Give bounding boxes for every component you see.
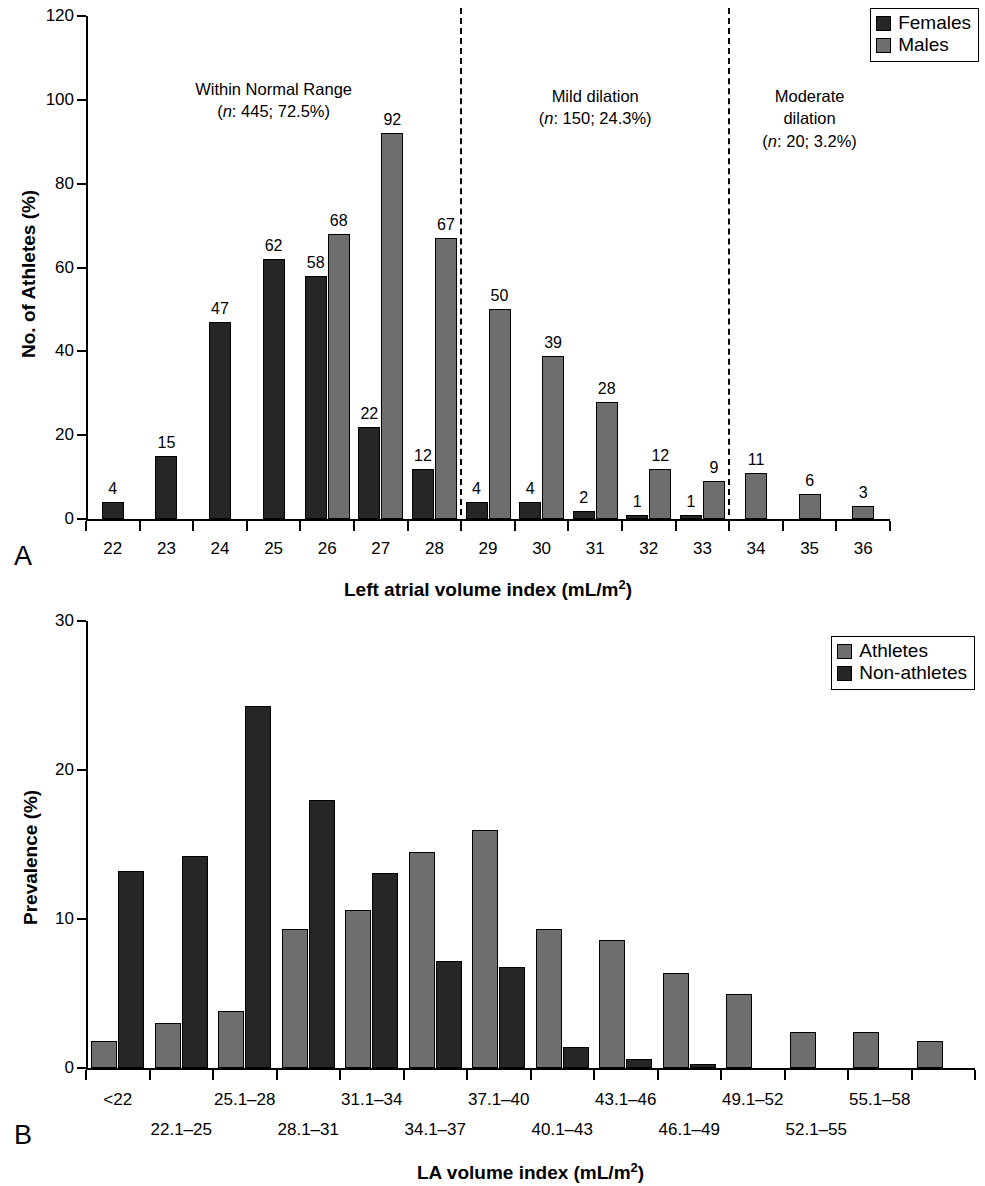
- x-axis-tick: [530, 1070, 532, 1080]
- bar-females: [519, 502, 541, 519]
- y-axis-title: Prevalence (%): [20, 789, 42, 924]
- bar-athletes: [218, 1011, 244, 1068]
- x-axis-tick-label: 43.1–46: [578, 1090, 674, 1110]
- x-axis-tick: [407, 521, 409, 531]
- y-axis-tick-label: 120: [28, 6, 74, 26]
- y-axis-line: [86, 621, 88, 1068]
- bar-value-label: 92: [383, 111, 401, 129]
- bar-males: [852, 506, 874, 519]
- region-note-n: (n: 445; 72.5%): [195, 100, 352, 122]
- x-axis-tick: [246, 521, 248, 531]
- bar-value-label: 1: [633, 493, 642, 511]
- x-axis-title-exponent: 2: [618, 577, 625, 592]
- bar-non-athletes: [118, 871, 144, 1068]
- legend-swatch-non-athletes: [837, 666, 852, 681]
- bar-non-athletes: [626, 1059, 652, 1068]
- region-note-normal: Within Normal Range(n: 445; 72.5%): [195, 78, 352, 123]
- x-axis-line: [86, 519, 890, 521]
- legend-item-females[interactable]: Females: [876, 12, 971, 34]
- legend-item-athletes[interactable]: Athletes: [837, 640, 967, 662]
- x-axis-title-tail: ): [638, 1162, 644, 1183]
- legend-label-athletes: Athletes: [859, 640, 928, 662]
- x-axis-tick: [593, 1070, 595, 1080]
- legend-panel-b: AthletesNon-athletes: [831, 636, 975, 690]
- bar-value-label: 2: [579, 489, 588, 507]
- x-axis-tick-label: 22: [83, 539, 143, 559]
- bar-athletes: [472, 830, 498, 1068]
- bar-value-label: 67: [437, 216, 455, 234]
- bar-athletes: [663, 973, 689, 1068]
- bar-value-label: 68: [330, 212, 348, 230]
- legend-swatch-females: [876, 16, 891, 31]
- y-axis-line: [86, 16, 88, 519]
- x-axis-tick-label: <22: [70, 1090, 166, 1110]
- x-axis-tick: [85, 521, 87, 531]
- y-axis-tick-label: 30: [30, 611, 74, 631]
- bar-males: [596, 402, 618, 519]
- x-axis-tick-label: 55.1–58: [832, 1090, 928, 1110]
- bar-athletes: [409, 852, 435, 1068]
- panel-letter-a: A: [14, 541, 32, 572]
- y-axis-tick: [77, 769, 86, 771]
- bar-non-athletes: [499, 967, 525, 1068]
- bar-value-label: 58: [307, 254, 325, 272]
- bar-value-label: 22: [360, 405, 378, 423]
- panel-letter-b: B: [14, 1120, 32, 1151]
- bar-males: [649, 469, 671, 519]
- x-axis-tick-label: 36: [833, 539, 893, 559]
- x-axis-tick-label: 27: [351, 539, 411, 559]
- bar-athletes: [536, 929, 562, 1068]
- region-note-n: (n: 150; 24.3%): [539, 107, 652, 129]
- y-axis-tick-label: 20: [28, 425, 74, 445]
- region-note-title: Within Normal Range: [195, 78, 352, 100]
- x-axis-tick: [567, 521, 569, 531]
- x-axis-tick: [847, 1070, 849, 1080]
- region-note-title: Mild dilation: [539, 85, 652, 107]
- x-axis-tick-label: 46.1–49: [641, 1120, 737, 1140]
- x-axis-tick-label: 30: [512, 539, 572, 559]
- x-axis-title-text: LA volume index (mL/m: [417, 1162, 631, 1183]
- x-axis-tick: [720, 1070, 722, 1080]
- bar-value-label: 9: [709, 459, 718, 477]
- x-axis-tick-label: 40.1–43: [514, 1120, 610, 1140]
- x-axis-title-tail: ): [626, 579, 632, 600]
- x-axis-tick-label: 26: [297, 539, 357, 559]
- x-axis-tick: [782, 521, 784, 531]
- bar-value-label: 4: [526, 480, 535, 498]
- bar-value-label: 4: [472, 480, 481, 498]
- bar-females: [102, 502, 124, 519]
- bar-athletes: [599, 940, 625, 1068]
- y-axis-tick: [77, 15, 86, 17]
- legend-item-males[interactable]: Males: [876, 34, 971, 56]
- x-axis-tick-label: 22.1–25: [133, 1120, 229, 1140]
- panel-b-chart: 0102030<2222.1–2525.1–2828.1–3131.1–3434…: [0, 600, 985, 1186]
- bar-athletes: [790, 1032, 816, 1068]
- legend-item-non-athletes[interactable]: Non-athletes: [837, 662, 967, 684]
- y-axis-tick-label: 0: [30, 1058, 74, 1078]
- bar-non-athletes: [372, 873, 398, 1068]
- bar-value-label: 6: [805, 472, 814, 490]
- x-axis-title-text: Left atrial volume index (mL/m: [344, 579, 619, 600]
- bar-athletes: [726, 994, 752, 1069]
- region-note-n: (n: 20; 3.2%): [762, 130, 857, 152]
- bar-males: [745, 473, 767, 519]
- x-axis-tick: [835, 521, 837, 531]
- bar-value-label: 28: [598, 380, 616, 398]
- bar-non-athletes: [309, 800, 335, 1068]
- x-axis-tick: [276, 1070, 278, 1080]
- legend-swatch-males: [876, 38, 891, 53]
- legend-label-non-athletes: Non-athletes: [859, 662, 967, 684]
- legend-swatch-athletes: [837, 644, 852, 659]
- region-note-mild: Mild dilation(n: 150; 24.3%): [539, 85, 652, 130]
- x-axis-tick-label: 31: [565, 539, 625, 559]
- x-axis-tick-label: 31.1–34: [324, 1090, 420, 1110]
- bar-value-label: 12: [651, 447, 669, 465]
- bar-value-label: 11: [748, 451, 765, 469]
- x-axis-tick-label: 25.1–28: [197, 1090, 293, 1110]
- x-axis-tick-label: 25: [244, 539, 304, 559]
- bar-females: [209, 322, 231, 519]
- bar-value-label: 4: [108, 480, 117, 498]
- x-axis-tick-label: 52.1–55: [768, 1120, 864, 1140]
- bar-value-label: 12: [414, 447, 432, 465]
- bar-males: [381, 133, 403, 519]
